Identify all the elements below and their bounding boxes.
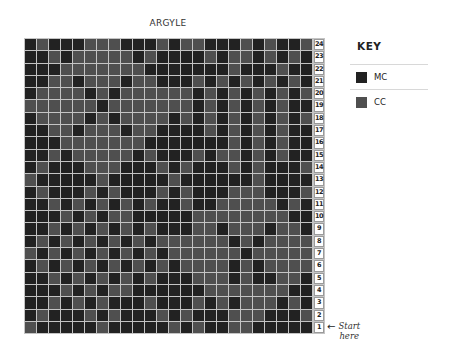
stitch-cell <box>25 285 36 296</box>
stitch-cell <box>169 199 180 210</box>
stitch-cell <box>85 187 96 198</box>
stitch-cell <box>133 199 144 210</box>
stitch-cell <box>145 297 156 308</box>
row-number-label: 9 <box>314 223 324 234</box>
stitch-cell <box>229 39 240 50</box>
stitch-cell <box>145 236 156 247</box>
stitch-cell <box>241 273 252 284</box>
start-label-line1: Start <box>338 321 360 331</box>
stitch-cell <box>169 137 180 148</box>
stitch-cell <box>241 51 252 62</box>
stitch-cell <box>217 51 228 62</box>
stitch-cell <box>217 236 228 247</box>
stitch-cell <box>121 285 132 296</box>
stitch-cell <box>61 223 72 234</box>
stitch-cell <box>205 76 216 87</box>
stitch-cell <box>145 51 156 62</box>
stitch-cell <box>229 174 240 185</box>
stitch-cell <box>145 310 156 321</box>
stitch-cell <box>97 113 108 124</box>
stitch-cell <box>265 273 276 284</box>
stitch-cell <box>145 125 156 136</box>
stitch-cell <box>73 125 84 136</box>
stitch-cell <box>301 285 312 296</box>
stitch-cell <box>37 248 48 259</box>
stitch-cell <box>97 260 108 271</box>
stitch-cell <box>277 150 288 161</box>
stitch-cell <box>301 51 312 62</box>
stitch-cell <box>97 236 108 247</box>
stitch-cell <box>277 260 288 271</box>
stitch-cell <box>157 297 168 308</box>
stitch-cell <box>145 211 156 222</box>
stitch-cell <box>37 76 48 87</box>
stitch-cell <box>109 297 120 308</box>
stitch-cell <box>109 199 120 210</box>
stitch-cell <box>193 174 204 185</box>
stitch-cell <box>37 187 48 198</box>
stitch-cell <box>37 113 48 124</box>
stitch-cell <box>85 39 96 50</box>
stitch-cell <box>241 211 252 222</box>
stitch-cell <box>229 310 240 321</box>
stitch-cell <box>229 162 240 173</box>
stitch-cell <box>265 174 276 185</box>
stitch-cell <box>265 248 276 259</box>
stitch-cell <box>169 211 180 222</box>
stitch-cell <box>25 88 36 99</box>
stitch-cell <box>217 211 228 222</box>
stitch-cell <box>169 125 180 136</box>
stitch-cell <box>37 273 48 284</box>
row-number-label: 1 <box>314 322 324 333</box>
stitch-cell <box>241 150 252 161</box>
stitch-cell <box>265 223 276 234</box>
stitch-cell <box>289 51 300 62</box>
stitch-cell <box>229 137 240 148</box>
stitch-cell <box>157 199 168 210</box>
stitch-cell <box>229 223 240 234</box>
stitch-cell <box>121 125 132 136</box>
stitch-cell <box>25 174 36 185</box>
stitch-cell <box>181 297 192 308</box>
stitch-cell <box>265 162 276 173</box>
stitch-cell <box>181 137 192 148</box>
stitch-cell <box>253 187 264 198</box>
stitch-grid <box>25 39 312 333</box>
stitch-cell <box>37 260 48 271</box>
left-arrow-icon: ← <box>327 321 335 333</box>
stitch-cell <box>277 174 288 185</box>
stitch-cell <box>49 76 60 87</box>
stitch-cell <box>157 236 168 247</box>
stitch-cell <box>121 223 132 234</box>
key-item-cc: CC <box>350 90 428 114</box>
stitch-cell <box>133 88 144 99</box>
stitch-cell <box>145 285 156 296</box>
stitch-cell <box>229 236 240 247</box>
stitch-cell <box>37 51 48 62</box>
stitch-cell <box>61 162 72 173</box>
stitch-cell <box>289 150 300 161</box>
stitch-cell <box>97 150 108 161</box>
stitch-cell <box>301 223 312 234</box>
stitch-cell <box>241 285 252 296</box>
stitch-cell <box>265 150 276 161</box>
stitch-cell <box>265 285 276 296</box>
stitch-cell <box>73 187 84 198</box>
stitch-cell <box>241 88 252 99</box>
stitch-cell <box>241 310 252 321</box>
stitch-cell <box>193 273 204 284</box>
stitch-cell <box>205 39 216 50</box>
stitch-cell <box>241 64 252 75</box>
stitch-cell <box>85 236 96 247</box>
stitch-cell <box>145 199 156 210</box>
key-item-mc: MC <box>350 65 428 89</box>
stitch-cell <box>169 39 180 50</box>
stitch-cell <box>241 162 252 173</box>
stitch-cell <box>193 260 204 271</box>
stitch-cell <box>217 310 228 321</box>
stitch-cell <box>301 162 312 173</box>
stitch-cell <box>205 236 216 247</box>
stitch-cell <box>289 310 300 321</box>
stitch-cell <box>49 273 60 284</box>
stitch-cell <box>49 248 60 259</box>
